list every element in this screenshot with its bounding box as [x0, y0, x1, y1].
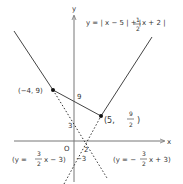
graph-canvas: y x O y = | x − 5 | + | 1 2 x + 2 | (−4,…: [0, 0, 183, 184]
tick-label-y-neg3: −3: [76, 155, 86, 163]
aux-label-neg-frac-den: 2: [142, 160, 146, 167]
tick-label-y-9: 9: [77, 93, 81, 101]
aux-label-neg-prefix: (y = −: [113, 156, 136, 164]
function-graph-line: [14, 31, 152, 116]
aux-label-pos-frac-num: 3: [37, 150, 41, 157]
function-label-frac-den: 2: [136, 25, 140, 32]
point-right-vertex: [99, 114, 103, 118]
function-label-frac-num: 1: [136, 16, 140, 23]
aux-line-neg-slope: [53, 90, 107, 178]
aux-label-pos-frac-den: 2: [37, 160, 41, 167]
point-right-label-suffix: ): [137, 116, 140, 125]
x-axis-label: x: [167, 138, 171, 146]
point-right-label-prefix: (5,: [104, 116, 115, 125]
function-label-prefix: y = | x − 5 | + |: [86, 19, 141, 27]
origin-label: O: [64, 145, 70, 153]
tick-label-x-2: 2: [84, 146, 88, 154]
point-right-frac-den: 2: [129, 121, 133, 128]
point-left-label: (−4, 9): [18, 87, 43, 95]
aux-label-pos-suffix: x − 3): [44, 156, 66, 164]
function-label-suffix: x + 2 |: [142, 19, 166, 27]
point-right-frac-num: 9: [129, 110, 133, 117]
point-left-vertex: [51, 88, 55, 92]
y-axis-label: y: [72, 5, 76, 13]
tick-label-y-3: 3: [68, 122, 72, 130]
aux-label-pos-prefix: (y =: [12, 156, 27, 164]
aux-label-neg-suffix: x + 3): [149, 156, 171, 164]
aux-label-neg-frac-num: 3: [142, 150, 146, 157]
